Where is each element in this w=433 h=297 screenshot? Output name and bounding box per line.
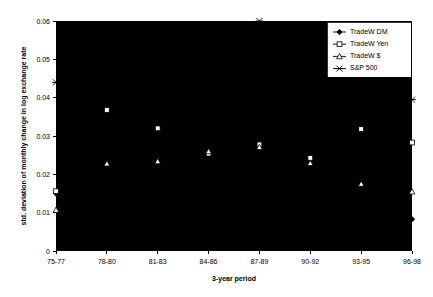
- legend-label: TradeW $: [350, 52, 381, 59]
- data-point-marker: [54, 189, 59, 194]
- x-axis-tick-label: 75-77: [47, 258, 65, 265]
- y-axis-tick-label: 0: [46, 248, 50, 255]
- y-axis-tick-label: 0.01: [36, 209, 50, 216]
- y-axis-tick-label: 0.03: [36, 133, 50, 140]
- x-axis-tick-label: 90-92: [301, 258, 319, 265]
- x-axis-tick-label: 96-98: [403, 258, 421, 265]
- data-point-marker: [359, 127, 364, 132]
- y-axis-title: std. deviation of monthly change in log …: [20, 46, 28, 225]
- legend-label: TradeW Yen: [350, 40, 388, 47]
- chart-container: 00.010.020.030.040.050.0675-7778-8081-83…: [0, 0, 433, 297]
- data-point-marker: [410, 140, 415, 145]
- legend-label: TradeW DM: [350, 28, 388, 35]
- x-axis-tick-label: 84-86: [200, 258, 218, 265]
- y-axis-tick-label: 0.06: [36, 18, 50, 25]
- x-axis-title: 3-year period: [212, 275, 256, 283]
- x-axis-tick-label: 87-89: [250, 258, 268, 265]
- y-axis-tick-label: 0.02: [36, 171, 50, 178]
- chart-legend: TradeW DMTradeW YenTradeW $S&P 500: [327, 22, 411, 77]
- data-point-marker: [104, 108, 109, 113]
- y-axis-tick-label: 0.04: [36, 94, 50, 101]
- x-axis-tick-label: 78-80: [98, 258, 116, 265]
- legend-label: S&P 500: [350, 64, 378, 71]
- line-chart: 00.010.020.030.040.050.0675-7778-8081-83…: [0, 0, 433, 297]
- x-axis-tick-label: 93-95: [352, 258, 370, 265]
- y-axis-tick-label: 0.05: [36, 56, 50, 63]
- data-point-marker: [155, 126, 160, 131]
- x-axis-tick-label: 81-83: [149, 258, 167, 265]
- legend-marker: [337, 42, 342, 47]
